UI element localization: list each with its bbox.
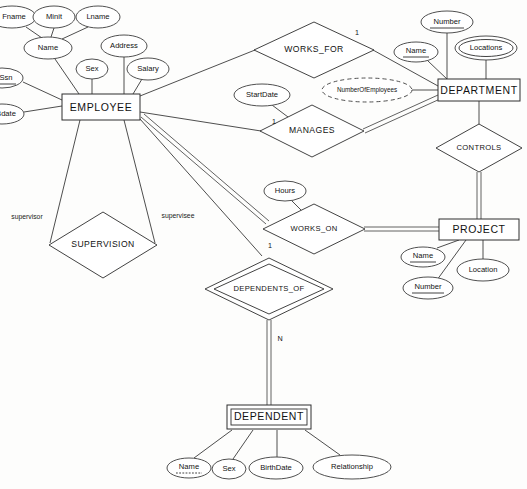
attribute-manages-startdate[interactable]: StartDate: [234, 84, 290, 106]
attribute-dept-number-label: Number: [433, 17, 460, 26]
edge-minit-name: [51, 28, 54, 37]
cardinality-manages: 1: [272, 117, 276, 126]
attribute-emp-fname-label: Fname: [2, 12, 26, 21]
edge-employee-works-on-b: [144, 114, 269, 221]
entity-employee[interactable]: EMPLOYEE: [62, 94, 140, 120]
attribute-emp-bdate[interactable]: Bdate: [0, 104, 24, 124]
attribute-dept-number-of-employees[interactable]: NumberOfEmployees: [322, 78, 412, 102]
attribute-proj-number[interactable]: Number: [403, 277, 453, 299]
attribute-proj-location[interactable]: Location: [457, 259, 509, 281]
edge-manages-department-b: [365, 99, 440, 133]
attribute-emp-minit[interactable]: Minit: [33, 6, 75, 28]
edge-employee-works-on-a: [141, 117, 266, 224]
cardinality-works-for: 1: [355, 28, 359, 37]
entity-project-label: PROJECT: [452, 223, 505, 235]
attribute-dep-birthdate[interactable]: BirthDate: [249, 457, 303, 479]
edge-dep-sex-dependent: [233, 430, 253, 459]
edge-employee-supervisor: [50, 120, 80, 243]
relationship-manages-label: MANAGES: [289, 125, 335, 135]
entity-department[interactable]: DEPARTMENT: [438, 79, 520, 101]
attribute-emp-sex-label: Sex: [85, 64, 98, 73]
attribute-emp-name[interactable]: Name: [24, 37, 72, 59]
attribute-dept-number[interactable]: Number: [421, 11, 473, 33]
cardinality-dependents-of-one: 1: [268, 241, 272, 250]
attribute-dep-sex[interactable]: Sex: [212, 459, 246, 479]
relationship-supervision-label: SUPERVISION: [71, 239, 135, 249]
edge-proj-name-project: [437, 240, 459, 248]
edge-ssn-employee: [23, 82, 62, 100]
relationship-works-on[interactable]: WORKS_ON: [263, 204, 365, 254]
attribute-emp-ssn-label: Ssn: [0, 73, 13, 82]
relationship-works-on-label: WORKS_ON: [290, 224, 337, 233]
attribute-emp-salary-label: Salary: [137, 64, 159, 73]
attribute-works-on-hours[interactable]: Hours: [264, 181, 306, 201]
edge-employee-supervisee: [124, 120, 155, 243]
relationship-supervision[interactable]: SUPERVISION: [49, 212, 157, 278]
entity-project[interactable]: PROJECT: [439, 219, 519, 240]
attribute-emp-bdate-label: Bdate: [0, 109, 16, 118]
attribute-dept-name[interactable]: Name: [394, 42, 438, 62]
attribute-emp-fname[interactable]: Fname: [0, 6, 36, 28]
er-diagram-canvas: EMPLOYEE DEPARTMENT PROJECT DEPENDENT WO…: [0, 0, 527, 489]
attribute-emp-ssn[interactable]: Ssn: [0, 68, 23, 88]
attribute-dep-relationship[interactable]: Relationship: [313, 455, 391, 479]
shapes-layer: EMPLOYEE DEPARTMENT PROJECT DEPENDENT WO…: [0, 6, 522, 479]
edge-fname-name: [26, 27, 42, 38]
edge-dep-relationship-dependent: [305, 430, 340, 455]
entity-employee-label: EMPLOYEE: [70, 101, 133, 113]
relationship-dependents-of-label: DEPENDENTS_OF: [233, 284, 304, 293]
attribute-dept-locations[interactable]: Locations: [455, 36, 517, 60]
attribute-proj-location-label: Location: [469, 265, 498, 274]
edge-employee-manages: [140, 112, 261, 131]
edge-lname-name: [62, 27, 88, 39]
attribute-dep-sex-label: Sex: [222, 464, 235, 473]
role-label-supervisor: supervisor: [11, 213, 43, 221]
edge-name-employee: [55, 59, 79, 94]
attribute-manages-startdate-label: StartDate: [246, 90, 278, 99]
attribute-emp-address[interactable]: Address: [101, 35, 147, 57]
attribute-dep-relationship-label: Relationship: [331, 462, 373, 471]
edge-employee-dependents-of: [140, 119, 262, 256]
edge-dept-name-department: [428, 61, 448, 80]
entity-dependent-label: DEPENDENT: [234, 410, 304, 422]
attribute-emp-minit-label: Minit: [46, 12, 63, 21]
role-label-supervisee: supervisee: [162, 212, 195, 220]
attribute-proj-name-label: Name: [413, 251, 433, 260]
cardinality-dependents-of-many: N: [277, 334, 282, 343]
attribute-proj-name[interactable]: Name: [401, 247, 445, 267]
attribute-emp-sex[interactable]: Sex: [76, 59, 108, 79]
attribute-dept-number-of-employees-label: NumberOfEmployees: [337, 86, 397, 94]
entity-department-label: DEPARTMENT: [440, 84, 517, 96]
attribute-emp-lname[interactable]: Lname: [76, 6, 120, 28]
er-diagram-svg: EMPLOYEE DEPARTMENT PROJECT DEPENDENT WO…: [0, 0, 527, 489]
entity-dependent[interactable]: DEPENDENT: [227, 405, 311, 429]
attribute-dep-name[interactable]: Name: [167, 458, 211, 478]
attribute-dep-name-label: Name: [179, 462, 199, 471]
edge-bdate-employee: [24, 106, 62, 112]
relationship-controls-label: CONTROLS: [457, 143, 502, 152]
attribute-dept-locations-label: Locations: [470, 43, 503, 52]
edge-dep-name-dependent: [194, 430, 232, 458]
attribute-emp-name-label: Name: [38, 43, 58, 52]
attribute-dept-name-label: Name: [406, 46, 426, 55]
relationship-controls[interactable]: CONTROLS: [436, 124, 522, 172]
edge-salary-employee: [133, 79, 142, 94]
relationship-dependents-of[interactable]: DEPENDENTS_OF: [205, 258, 333, 320]
attribute-works-on-hours-label: Hours: [275, 186, 295, 195]
attribute-emp-salary[interactable]: Salary: [127, 58, 169, 80]
attribute-dep-birthdate-label: BirthDate: [260, 463, 292, 472]
attribute-emp-address-label: Address: [110, 41, 138, 50]
relationship-works-for-label: WORKS_FOR: [284, 44, 343, 54]
attribute-emp-lname-label: Lname: [86, 12, 109, 21]
attribute-proj-number-label: Number: [414, 282, 441, 291]
relationship-manages[interactable]: MANAGES: [260, 105, 364, 157]
